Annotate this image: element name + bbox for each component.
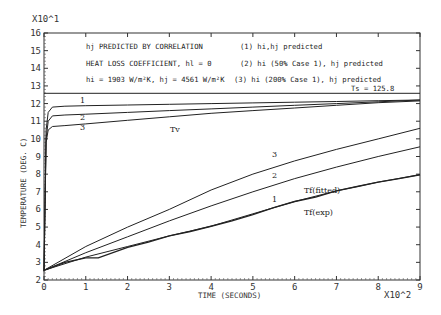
tv-curve-2-label: 2	[80, 113, 85, 122]
annotation-line1: hj PREDICTED BY CORRELATION	[86, 42, 203, 51]
annotation-line3: hi = 1903 W/m²K, hj = 4561 W/m²K	[86, 75, 225, 84]
y-tick-label: 11	[30, 116, 41, 126]
ts-label: Ts = 125.8	[351, 84, 394, 93]
y-tick-label: 5	[36, 222, 41, 232]
tv-curve-3-label: 3	[80, 123, 85, 132]
tf-curve-1-label: 1	[272, 195, 277, 204]
x-axis-title: TIME (SECONDS)	[198, 291, 261, 300]
series-line-3	[44, 101, 420, 271]
tf-fitted-label: Tf(fitted)	[304, 186, 340, 195]
y-tick-label: 16	[30, 28, 41, 38]
x-tick-label: 1	[83, 282, 88, 292]
y-tick-label: 14	[30, 63, 41, 73]
tf-curve-3-label: 3	[272, 150, 277, 159]
y-tick-label: 9	[36, 152, 41, 162]
tf-exp-label: Tf(exp)	[304, 208, 333, 217]
y-tick-label: 7	[36, 187, 41, 197]
x-multiplier-label: X10^2	[384, 290, 411, 300]
series-line-7	[44, 175, 420, 271]
y-tick-label: 6	[36, 204, 41, 214]
series-line-5	[44, 147, 420, 270]
y-tick-label: 13	[30, 81, 41, 91]
annotation-line2: HEAT LOSS COEFFICIENT, hl = 0	[86, 59, 212, 68]
y-tick-label: 2	[36, 275, 41, 285]
plot-frame	[44, 33, 420, 280]
tv-curve-1-label: 1	[80, 96, 85, 105]
y-tick-label: 3	[36, 257, 41, 267]
y-tick-label: 10	[30, 134, 41, 144]
tf-curve-2-label: 2	[272, 171, 277, 180]
y-tick-label: 12	[30, 99, 41, 109]
temperature-chart: 2345678910111213141516 0123456789 X10^1 …	[0, 0, 441, 315]
x-tick-label: 3	[167, 282, 172, 292]
y-tick-label: 4	[36, 240, 41, 250]
y-multiplier-label: X10^1	[32, 14, 59, 24]
y-tick-label: 8	[36, 169, 41, 179]
x-tick-label: 0	[41, 282, 46, 292]
series-lines	[44, 93, 420, 271]
annotation-case2: (2) hi (50% Case 1), hj predicted	[240, 59, 383, 68]
y-axis-title: TEMPERATURE (DEG. C)	[19, 138, 28, 228]
x-axis-ticks: 0123456789	[41, 33, 422, 292]
x-tick-label: 7	[334, 282, 339, 292]
tv-label: Tv	[170, 125, 180, 134]
annotation-case3: (3) hi (200% Case 1), hj predicted	[234, 75, 381, 84]
x-tick-label: 6	[292, 282, 297, 292]
x-tick-label: 8	[376, 282, 381, 292]
x-tick-label: 9	[417, 282, 422, 292]
y-tick-label: 15	[30, 46, 41, 56]
x-tick-label: 2	[125, 282, 130, 292]
annotation-case1: (1) hi,hj predicted	[240, 42, 322, 51]
series-line-6	[44, 175, 420, 271]
